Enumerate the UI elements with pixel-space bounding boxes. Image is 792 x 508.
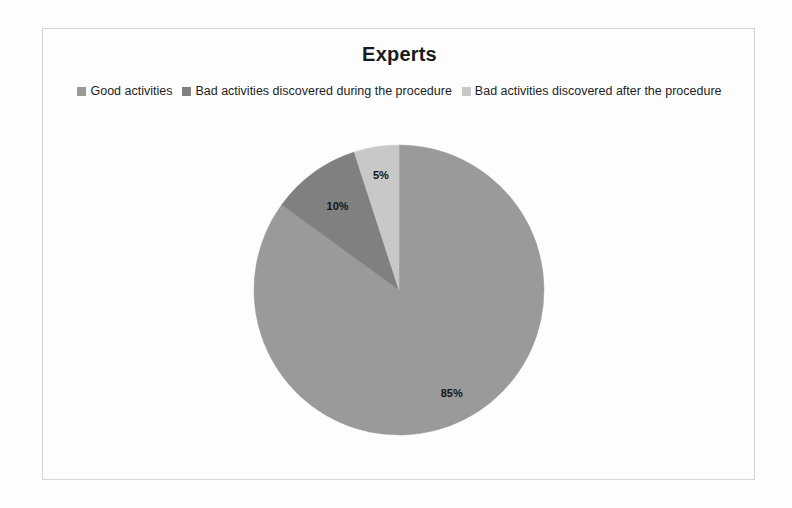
- legend-item-bad-after[interactable]: Bad activities discovered after the proc…: [462, 85, 722, 98]
- square-swatch-icon: [462, 87, 471, 96]
- chart-frame: Experts Good activities Bad activities d…: [42, 28, 755, 480]
- chart-title: Experts: [43, 43, 756, 66]
- legend-item-good-activities[interactable]: Good activities: [77, 85, 172, 98]
- legend-item-label: Bad activities discovered during the pro…: [195, 85, 451, 98]
- chart-legend: Good activities Bad activities discovere…: [43, 85, 756, 98]
- square-swatch-icon: [182, 87, 191, 96]
- pie-slice-label: 5%: [373, 169, 389, 181]
- legend-item-label: Good activities: [90, 85, 172, 98]
- pie-slice-label: 10%: [327, 200, 349, 212]
- legend-item-label: Bad activities discovered after the proc…: [475, 85, 722, 98]
- pie-slice-label: 85%: [441, 387, 463, 399]
- legend-item-bad-during[interactable]: Bad activities discovered during the pro…: [182, 85, 451, 98]
- pie-slice-group: [254, 145, 544, 435]
- square-swatch-icon: [77, 87, 86, 96]
- pie-chart: 85%10%5%: [253, 144, 545, 436]
- pie-chart-svg: 85%10%5%: [253, 144, 545, 436]
